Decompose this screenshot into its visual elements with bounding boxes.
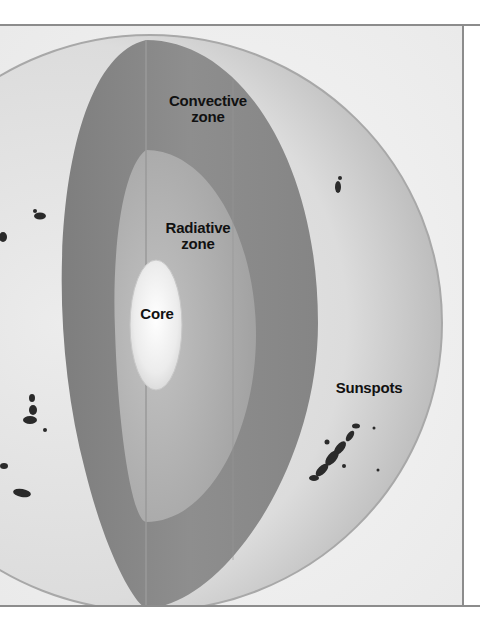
frame-right-border: [462, 24, 464, 607]
radiative-zone-label-line1: Radiative: [148, 220, 248, 236]
convective-zone-label-line1: Convective: [152, 93, 264, 109]
core-label: Core: [132, 306, 182, 322]
core: [130, 260, 182, 390]
radiative-zone-label-line2: zone: [148, 236, 248, 252]
convective-zone-label: Convective zone: [152, 93, 264, 125]
radiative-zone-label: Radiative zone: [148, 220, 248, 252]
convective-zone-label-line2: zone: [152, 109, 264, 125]
frame-bottom-border: [0, 605, 480, 607]
sunspots-label: Sunspots: [326, 380, 412, 396]
